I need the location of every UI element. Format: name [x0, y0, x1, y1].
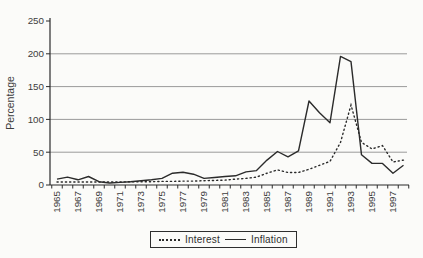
y-tick-label-0: 0	[39, 179, 45, 190]
series-line-interest	[57, 105, 404, 182]
legend: Interest Inflation	[150, 231, 297, 248]
chart: 0501001502002501965196719691971197319751…	[0, 0, 423, 258]
x-tick-label-1991: 1991	[324, 191, 335, 213]
x-tick-label-1977: 1977	[177, 191, 188, 213]
legend-line-sample-inflation	[225, 239, 246, 240]
x-tick-label-1987: 1987	[282, 191, 293, 213]
y-tick-label-150: 150	[28, 81, 45, 92]
x-tick-label-1995: 1995	[366, 190, 377, 212]
x-tick-label-1985: 1985	[261, 190, 272, 212]
x-tick-label-1967: 1967	[72, 191, 83, 213]
x-tick-label-1969: 1969	[93, 191, 104, 213]
x-tick-label-1983: 1983	[240, 190, 251, 212]
x-tick-label-1979: 1979	[198, 191, 209, 213]
line-chart-svg: 0501001502002501965196719691971197319751…	[0, 0, 423, 258]
y-tick-label-100: 100	[28, 114, 45, 125]
x-tick-label-1965: 1965	[51, 190, 62, 212]
x-tick-label-1981: 1981	[219, 191, 230, 213]
x-tick-label-1993: 1993	[345, 190, 356, 212]
legend-line-sample-interest	[159, 239, 180, 241]
legend-label-inflation: Inflation	[251, 234, 288, 245]
x-tick-label-1971: 1971	[114, 191, 125, 213]
x-tick-label-1997: 1997	[387, 191, 398, 213]
x-tick-label-1975: 1975	[156, 190, 167, 212]
y-tick-label-200: 200	[28, 48, 45, 59]
y-tick-label-250: 250	[28, 15, 45, 26]
y-tick-label-50: 50	[33, 147, 44, 158]
x-tick-label-1989: 1989	[303, 191, 314, 213]
x-tick-label-1973: 1973	[135, 190, 146, 212]
y-axis-title: Percentage	[4, 76, 16, 130]
legend-label-interest: Interest	[185, 234, 220, 245]
